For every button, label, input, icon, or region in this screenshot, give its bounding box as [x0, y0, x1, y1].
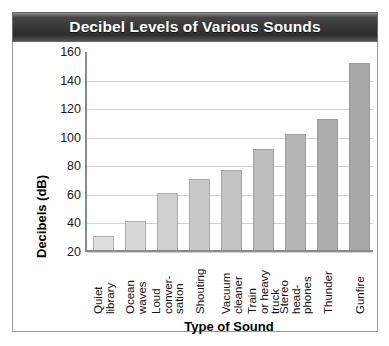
y-axis-tick-labels: 16014012010080604020 [47, 43, 81, 331]
bar [157, 193, 178, 250]
bar [125, 221, 146, 250]
x-tick-label: Loud conver- sation [151, 276, 186, 314]
chart-title-bar: Decibel Levels of Various Sounds [12, 12, 378, 42]
gridline [87, 252, 373, 253]
chart-axes [85, 52, 373, 252]
y-tick-label: 100 [47, 132, 81, 145]
x-tick-label: Shouting [195, 269, 207, 314]
bar [285, 134, 306, 250]
x-tick-label: Train or heavy truck [247, 270, 282, 314]
x-tick-label: Thunder [323, 271, 335, 314]
chart-title: Decibel Levels of Various Sounds [69, 18, 320, 36]
y-tick-label: 60 [47, 189, 81, 202]
y-tick-label: 20 [47, 246, 81, 259]
x-tick-label: Stereo head- phones [279, 276, 314, 314]
bar [253, 149, 274, 250]
bar [317, 119, 338, 250]
plot-area: Decibels (dB) 16014012010080604020 Quiet… [13, 43, 377, 331]
bar-series [87, 52, 373, 250]
bar [349, 63, 370, 250]
y-tick-label: 120 [47, 103, 81, 116]
y-tick-label: 140 [47, 75, 81, 88]
chart-screenshot: Decibel Levels of Various Sounds Decibel… [0, 0, 389, 346]
x-tick-label: Quiet library [93, 283, 116, 314]
y-tick-label: 160 [47, 46, 81, 59]
y-tick-label: 80 [47, 160, 81, 173]
bar [93, 236, 114, 250]
y-tick-label: 40 [47, 217, 81, 230]
x-axis-title: Type of Sound [85, 319, 373, 334]
bar [221, 170, 242, 250]
x-tick-label: Gunfire [355, 276, 367, 314]
bar [189, 179, 210, 250]
x-axis-tick-labels: Quiet libraryOcean wavesLoud conver- sat… [85, 254, 373, 316]
x-tick-label: Vacuum cleaner [221, 273, 244, 314]
x-tick-label: Ocean waves [125, 280, 148, 314]
